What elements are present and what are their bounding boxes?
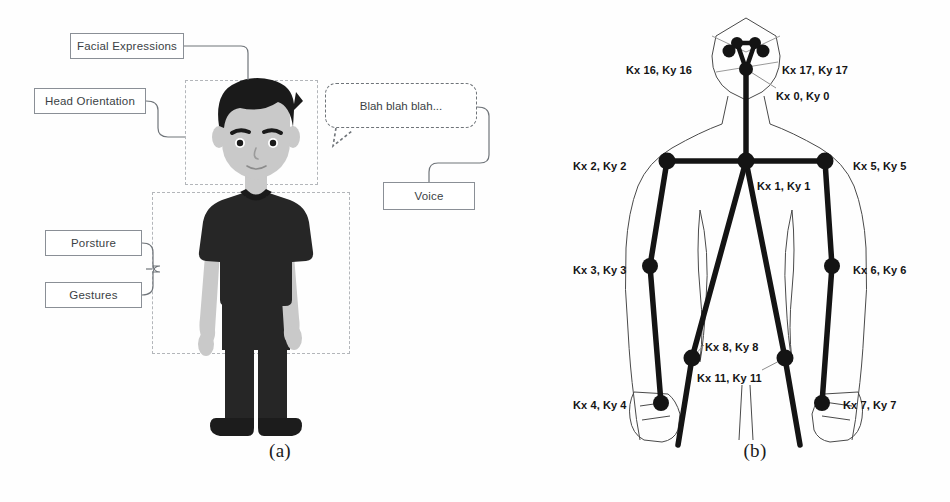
label-box-gestures[interactable]: Gestures xyxy=(45,282,142,308)
keypoint-label-16: Kx 16, Ky 16 xyxy=(626,64,692,76)
keypoint-label-1: Kx 1, Ky 1 xyxy=(757,180,811,192)
label-box-facial-expressions[interactable]: Facial Expressions xyxy=(70,33,184,59)
panel-a: Facial Expressions Head Orientation Pors… xyxy=(0,0,560,502)
label-box-voice[interactable]: Voice xyxy=(383,182,475,210)
keypoint-label-4: Kx 4, Ky 4 xyxy=(573,399,627,411)
label-text: Voice xyxy=(414,190,443,202)
speech-bubble-text: Blah blah blah... xyxy=(360,100,442,112)
speech-bubble[interactable]: Blah blah blah... xyxy=(325,83,477,128)
head-roi-dashed-box xyxy=(185,80,318,185)
label-text: Facial Expressions xyxy=(77,40,177,52)
keypoint-label-3: Kx 3, Ky 3 xyxy=(573,264,627,276)
keypoint-label-7: Kx 7, Ky 7 xyxy=(843,399,897,411)
keypoint-label-5: Kx 5, Ky 5 xyxy=(853,160,907,172)
keypoint-label-6: Kx 6, Ky 6 xyxy=(853,264,907,276)
label-text: Head Orientation xyxy=(45,95,135,107)
panel-b: Kx 16, Ky 16Kx 17, Ky 17Kx 0, Ky 0Kx 2, … xyxy=(560,0,950,502)
panel-a-caption: (a) xyxy=(0,440,560,462)
keypoint-label-8: Kx 8, Ky 8 xyxy=(705,341,759,353)
keypoint-label-11: Kx 11, Ky 11 xyxy=(697,372,762,384)
keypoint-label-2: Kx 2, Ky 2 xyxy=(573,160,627,172)
label-text: Porsture xyxy=(71,237,116,249)
figure-container: Facial Expressions Head Orientation Pors… xyxy=(0,0,950,502)
keypoint-label-17: Kx 17, Ky 17 xyxy=(782,64,848,76)
label-text: Gestures xyxy=(69,289,117,301)
body-roi-dashed-box xyxy=(152,192,350,354)
keypoint-label-0: Kx 0, Ky 0 xyxy=(776,90,830,102)
label-box-head-orientation[interactable]: Head Orientation xyxy=(34,88,146,114)
label-box-posture[interactable]: Porsture xyxy=(45,230,142,256)
panel-b-caption: (b) xyxy=(560,440,950,462)
